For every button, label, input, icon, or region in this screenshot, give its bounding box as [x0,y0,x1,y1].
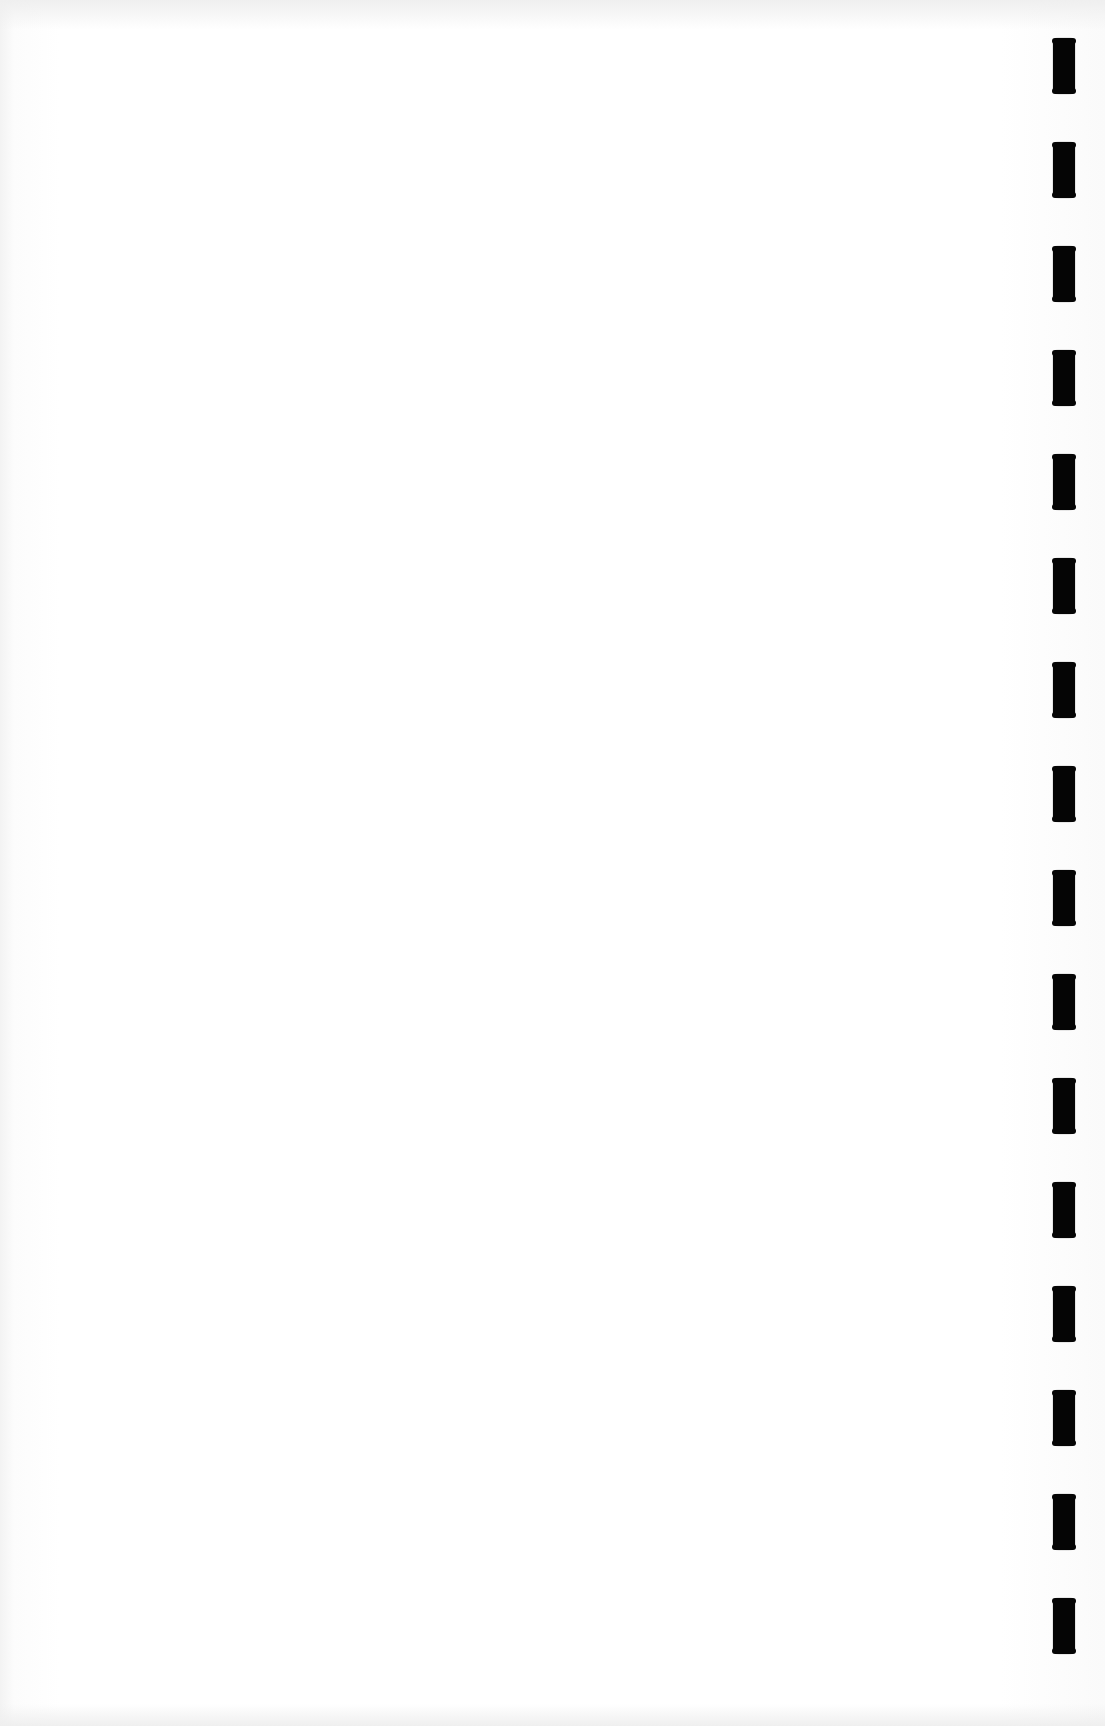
binding-hole-icon [1053,454,1075,510]
binding-hole-icon [1053,246,1075,302]
binding-hole-icon [1053,1078,1075,1134]
binding-hole-icon [1053,38,1075,94]
binding-hole-icon [1053,1286,1075,1342]
binding-hole-icon [1053,662,1075,718]
blank-page [0,0,1105,1726]
binding-hole-icon [1053,870,1075,926]
binding-hole-icon [1053,350,1075,406]
binding-hole-icon [1053,1182,1075,1238]
binding-hole-icon [1053,1390,1075,1446]
binding-hole-icon [1053,142,1075,198]
binding-hole-icon [1053,1494,1075,1550]
binding-hole-icon [1053,766,1075,822]
binding-hole-icon [1053,558,1075,614]
binding-holes-strip [1053,0,1077,1726]
binding-hole-icon [1053,974,1075,1030]
binding-hole-icon [1053,1598,1075,1654]
